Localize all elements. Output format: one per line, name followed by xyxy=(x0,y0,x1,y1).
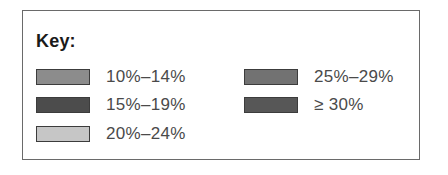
legend-label-10-14: 10%–14% xyxy=(106,67,186,87)
legend-item-15-19: 15%–19% xyxy=(36,95,186,115)
legend-label-20-24: 20%–24% xyxy=(106,124,186,144)
legend-key-box: Key: 10%–14% 15%–19% 20%–24% 25%–29% ≥ 3… xyxy=(22,10,420,160)
legend-label-30-plus: ≥ 30% xyxy=(314,95,364,115)
swatch-20-24 xyxy=(36,126,90,142)
legend-label-15-19: 15%–19% xyxy=(106,95,186,115)
legend-item-20-24: 20%–24% xyxy=(36,124,186,144)
swatch-25-29 xyxy=(244,69,298,85)
legend-item-30-plus: ≥ 30% xyxy=(244,95,364,115)
legend-label-25-29: 25%–29% xyxy=(314,67,394,87)
legend-item-10-14: 10%–14% xyxy=(36,67,186,87)
legend-item-25-29: 25%–29% xyxy=(244,67,394,87)
swatch-10-14 xyxy=(36,69,90,85)
swatch-15-19 xyxy=(36,97,90,113)
swatch-30-plus xyxy=(244,97,298,113)
legend-title: Key: xyxy=(36,31,76,52)
